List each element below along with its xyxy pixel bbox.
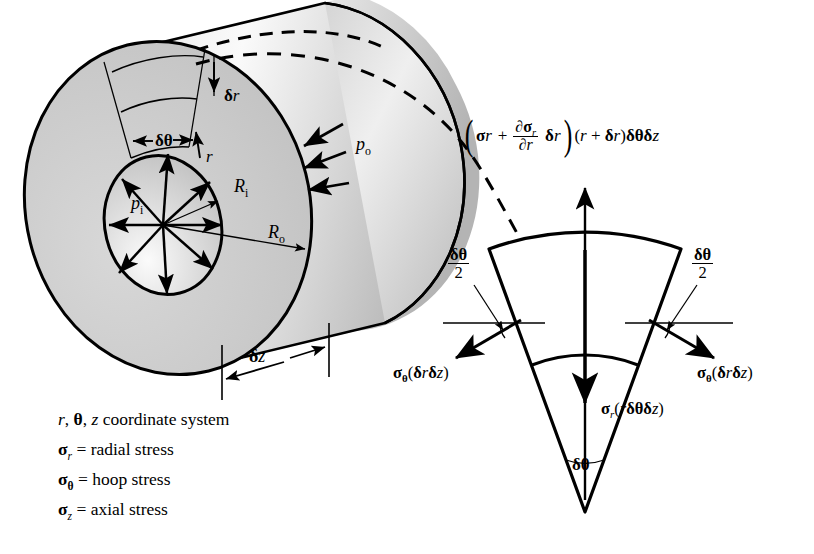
delta-r-label: δr — [224, 86, 239, 105]
legend-axial-text: = axial stress — [76, 499, 168, 519]
open-paren: ( — [465, 123, 474, 149]
figure-canvas: δr δθ r pi po Ri Ro δz ( σr + ∂σr ∂r δr — [0, 0, 814, 554]
legend-item-axial: σz = axial stress — [58, 499, 229, 520]
legend-item-coordinates: r, θ, z coordinate system — [58, 409, 229, 430]
legend-item-hoop: σθ = hoop stress — [58, 469, 229, 490]
internal-pressure-label: pi — [131, 193, 143, 213]
delta-theta-label: δθ — [155, 131, 173, 150]
partial-derivative-fraction: ∂σr ∂r — [513, 119, 538, 154]
radius-r-label: r — [206, 147, 213, 166]
hoop-stress-arrow-right — [649, 320, 714, 358]
external-pressure-label: po — [356, 134, 371, 154]
outer-radius-label: Ro — [268, 222, 285, 242]
radial-stress-label: σr(rδθδz) — [601, 400, 664, 418]
hoop-stress-label-right: σθ(δrδz) — [697, 364, 753, 382]
radial-stress-equation: ( σr + ∂σr ∂r δr ) (r + δr)δθδz — [462, 119, 659, 154]
hoop-stress-arrow-left — [456, 320, 521, 358]
inner-radius-label: Ri — [234, 176, 248, 196]
apex-angle-label: δθ — [572, 455, 590, 474]
half-angle-label-right: δθ 2 — [692, 246, 713, 282]
legend-hoop-text: = hoop stress — [78, 469, 171, 489]
close-paren: ) — [563, 123, 572, 149]
symbol-legend: r, θ, z coordinate system σr = radial st… — [58, 409, 229, 529]
delta-z-label: δz — [249, 346, 265, 366]
half-angle-label-left: δθ 2 — [448, 246, 469, 282]
legend-radial-text: = radial stress — [76, 439, 173, 459]
legend-coord-text: coordinate system — [103, 409, 230, 429]
hoop-stress-label-left: σθ(δrδz) — [393, 364, 449, 382]
legend-item-radial: σr = radial stress — [58, 439, 229, 460]
